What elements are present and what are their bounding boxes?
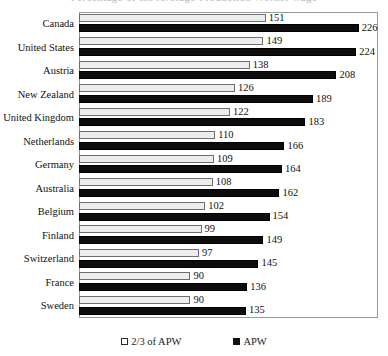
bar-two-thirds-apw — [79, 108, 230, 116]
row-bars: 97145 — [79, 247, 378, 271]
category-label: United Kingdom — [0, 112, 79, 123]
chart-row: Switzerland97145 — [0, 247, 378, 271]
chart-row: Netherlands110166 — [0, 130, 378, 154]
chart-row: France90136 — [0, 271, 378, 295]
chart-row: Austria138208 — [0, 59, 378, 83]
bar-apw — [79, 24, 359, 32]
bar-value-label: 138 — [253, 61, 269, 69]
bar-two-thirds-apw — [79, 131, 215, 139]
bar-value-label: 90 — [193, 296, 204, 304]
bar-value-label: 145 — [261, 259, 277, 267]
legend-label: APW — [243, 336, 266, 347]
bar-value-label: 122 — [233, 108, 249, 116]
category-label: United States — [0, 42, 79, 53]
chart-row: Canada151226 — [0, 12, 378, 36]
bar-value-label: 99 — [205, 225, 216, 233]
bar-value-label: 166 — [287, 142, 303, 150]
bar-two-thirds-apw — [79, 84, 235, 92]
bar-two-thirds-apw — [79, 37, 263, 45]
legend-item: 2/3 of APW — [121, 336, 181, 347]
category-label: Sweden — [0, 300, 79, 311]
row-bars: 126189 — [79, 83, 378, 107]
category-label: Finland — [0, 230, 79, 241]
bar-two-thirds-apw — [79, 272, 190, 280]
category-label: Netherlands — [0, 136, 79, 147]
clipped-title-remnant: Percentage of the Average Production Wor… — [0, 0, 388, 9]
bar-value-label: 135 — [249, 306, 265, 314]
legend-swatch-dark — [233, 338, 240, 345]
bar-value-label: 162 — [282, 189, 298, 197]
bar-apw — [79, 48, 356, 56]
bar-two-thirds-apw — [79, 225, 202, 233]
row-bars: 108162 — [79, 177, 378, 201]
chart-row: United States149224 — [0, 36, 378, 60]
chart-row: Germany109164 — [0, 153, 378, 177]
row-bars: 99149 — [79, 224, 378, 248]
bar-chart: Canada151226United States149224Austria13… — [0, 9, 388, 321]
bar-two-thirds-apw — [79, 202, 205, 210]
bar-value-label: 151 — [269, 14, 285, 22]
bar-value-label: 208 — [339, 71, 355, 79]
bar-apw — [79, 283, 247, 291]
category-label: Switzerland — [0, 253, 79, 264]
bar-value-label: 108 — [216, 178, 232, 186]
category-label: Austria — [0, 65, 79, 76]
bar-apw — [79, 118, 305, 126]
bar-apw — [79, 142, 284, 150]
bar-two-thirds-apw — [79, 178, 213, 186]
category-label: Australia — [0, 183, 79, 194]
bar-value-label: 183 — [308, 118, 324, 126]
chart-rows: Canada151226United States149224Austria13… — [0, 12, 378, 318]
bar-apw — [79, 236, 263, 244]
category-label: Belgium — [0, 206, 79, 217]
chart-row: United Kingdom122183 — [0, 106, 378, 130]
bar-apw — [79, 189, 279, 197]
bar-apw — [79, 213, 270, 221]
bar-apw — [79, 95, 313, 103]
bar-value-label: 189 — [316, 95, 332, 103]
chart-row: Australia108162 — [0, 177, 378, 201]
category-label: Germany — [0, 159, 79, 170]
chart-row: New Zealand126189 — [0, 83, 378, 107]
bar-two-thirds-apw — [79, 14, 266, 22]
bar-value-label: 224 — [359, 48, 375, 56]
chart-legend: 2/3 of APWAPW — [0, 330, 388, 352]
row-bars: 110166 — [79, 130, 378, 154]
category-label: New Zealand — [0, 89, 79, 100]
chart-row: Belgium102154 — [0, 200, 378, 224]
row-bars: 90136 — [79, 271, 378, 295]
category-label: Canada — [0, 18, 79, 29]
chart-row: Sweden90135 — [0, 294, 378, 318]
bar-value-label: 149 — [266, 37, 282, 45]
bar-value-label: 126 — [238, 84, 254, 92]
legend-label: 2/3 of APW — [131, 336, 181, 347]
category-label: France — [0, 277, 79, 288]
bar-value-label: 110 — [218, 131, 233, 139]
bar-value-label: 154 — [273, 212, 289, 220]
row-bars: 90135 — [79, 294, 378, 318]
bar-value-label: 164 — [285, 165, 301, 173]
row-bars: 109164 — [79, 153, 378, 177]
bar-two-thirds-apw — [79, 155, 214, 163]
bar-apw — [79, 307, 246, 315]
row-bars: 151226 — [79, 12, 378, 36]
bar-two-thirds-apw — [79, 296, 190, 304]
legend-item: APW — [233, 336, 266, 347]
bar-value-label: 109 — [217, 155, 233, 163]
bar-value-label: 149 — [266, 236, 282, 244]
bar-value-label: 102 — [208, 202, 224, 210]
bar-two-thirds-apw — [79, 249, 199, 257]
bar-apw — [79, 260, 258, 268]
bar-value-label: 97 — [202, 249, 213, 257]
row-bars: 149224 — [79, 36, 378, 60]
chart-row: Finland99149 — [0, 224, 378, 248]
row-bars: 138208 — [79, 59, 378, 83]
legend-swatch-light — [121, 338, 128, 345]
bar-value-label: 90 — [193, 272, 204, 280]
bar-apw — [79, 165, 282, 173]
bar-two-thirds-apw — [79, 61, 250, 69]
bar-value-label: 136 — [250, 283, 266, 291]
bar-value-label: 226 — [362, 24, 378, 32]
row-bars: 102154 — [79, 200, 378, 224]
row-bars: 122183 — [79, 106, 378, 130]
